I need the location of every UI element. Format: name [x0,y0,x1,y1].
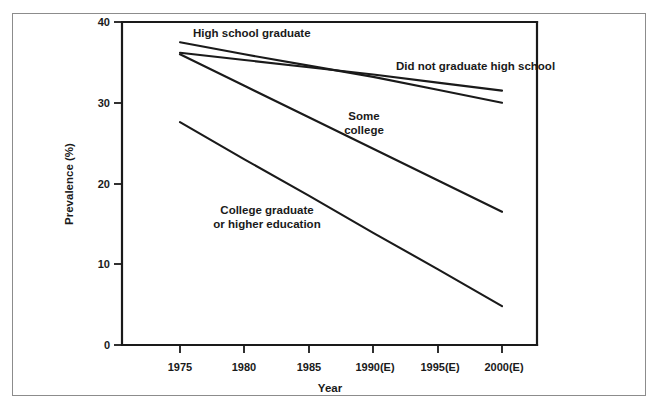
series-line-some-college [180,54,502,212]
y-tick-label-20: 20 [98,178,110,190]
x-tick-label-1995: 1995(E) [420,361,459,373]
x-tick-label-1990: 1990(E) [355,361,394,373]
series-label-college-graduate-line2: or higher education [213,218,320,230]
y-tick-group [114,22,122,345]
series-label-some-college-line1: Some [348,110,379,122]
x-axis-title: Year [318,382,343,394]
y-tick-label-30: 30 [98,97,110,109]
y-tick-label-40: 40 [98,16,110,28]
series-group [180,42,502,306]
series-annotations: High school graduate Did not graduate hi… [193,27,555,230]
x-tick-label-1975: 1975 [168,361,192,373]
series-label-did-not-graduate-high-school: Did not graduate high school [396,60,555,72]
x-tick-label-2000: 2000(E) [484,361,523,373]
series-label-high-school-graduate: High school graduate [193,27,311,39]
y-tick-label-10: 10 [98,258,110,270]
series-line-high-school-graduate [180,42,502,103]
y-tick-labels: 40 30 20 10 0 [98,16,110,351]
x-tick-label-1980: 1980 [232,361,256,373]
x-tick-label-1985: 1985 [297,361,321,373]
y-tick-label-0: 0 [104,339,110,351]
series-label-some-college-line2: college [344,124,384,136]
x-tick-group [180,345,502,353]
line-chart: 40 30 20 10 0 1975 1980 1985 1990(E) 199… [0,0,656,411]
figure-root: 40 30 20 10 0 1975 1980 1985 1990(E) 199… [0,0,656,411]
y-axis-title: Prevalence (%) [63,143,75,225]
series-label-college-graduate-line1: College graduate [220,204,313,216]
x-tick-labels: 1975 1980 1985 1990(E) 1995(E) 2000(E) [168,361,524,373]
